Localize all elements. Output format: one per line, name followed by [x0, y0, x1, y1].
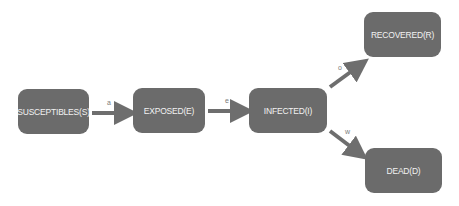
node-label: RECOVERED(R) — [371, 30, 434, 40]
edge-label-e: e — [225, 97, 229, 104]
arrow-i-to-r — [330, 68, 356, 87]
node-label: SUSCEPTIBLES(S) — [17, 107, 90, 117]
node-dead: DEAD(D) — [365, 148, 442, 193]
node-label: INFECTED(I) — [264, 106, 312, 116]
arrow-i-to-d — [330, 131, 355, 150]
node-label: DEAD(D) — [386, 166, 420, 176]
edge-label-a: a — [107, 99, 111, 106]
edge-label-w: w — [345, 128, 350, 135]
node-susceptibles: SUSCEPTIBLES(S) — [18, 89, 89, 134]
edge-label-o: o — [338, 64, 342, 71]
node-infected: INFECTED(I) — [249, 88, 327, 133]
node-label: EXPOSED(E) — [144, 106, 194, 116]
node-exposed: EXPOSED(E) — [133, 88, 205, 133]
node-recovered: RECOVERED(R) — [364, 12, 441, 57]
